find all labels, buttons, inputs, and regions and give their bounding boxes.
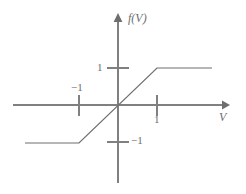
y-axis-label: f(V) — [128, 12, 147, 24]
y-tick-label-positive-one: 1 — [97, 62, 103, 73]
x-axis-label: V — [219, 111, 226, 123]
x-tick-label-negative-one: −1 — [71, 82, 83, 93]
transfer-function-figure: f(V) V 1 −1 −1 1 — [0, 0, 246, 194]
y-axis-arrowhead — [114, 13, 123, 22]
y-tick-label-negative-one: −1 — [131, 135, 143, 146]
plot-canvas — [0, 0, 246, 194]
x-axis-arrowhead — [222, 101, 230, 110]
x-tick-label-positive-one: 1 — [154, 114, 160, 125]
